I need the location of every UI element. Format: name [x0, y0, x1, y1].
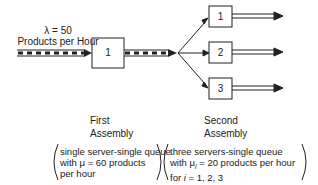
- stage2-title-line2: Assembly: [204, 128, 247, 139]
- arrival-rate-text: λ = 50: [13, 25, 103, 36]
- output-arrows: [232, 12, 283, 92]
- stage1-desc-line1: single server-single queue: [60, 146, 171, 157]
- stage2-desc-line2: with μi = 20 products per hour: [170, 157, 295, 172]
- stage2-server-number-2: 2: [209, 47, 232, 58]
- mu-value: = 20 products per hour: [197, 157, 296, 168]
- arrival-queue-arrow: [17, 49, 92, 57]
- stage1-desc-line2: with μ = 60 products: [60, 157, 171, 168]
- split-arrows: [178, 18, 209, 88]
- stage2-description: three servers-single queue with μi = 20 …: [170, 146, 295, 183]
- arrival-unit-text: Products per Hour: [13, 36, 103, 47]
- mu-symbol: with μ: [170, 157, 195, 168]
- stage1-description: single server-single queue with μ = 60 p…: [60, 146, 171, 179]
- stage2-desc-line1: three servers-single queue: [170, 146, 295, 157]
- stage2-title: Second Assembly: [204, 115, 247, 139]
- stage1-desc-line3: per hour: [60, 168, 171, 179]
- stage1-title: First Assembly: [90, 115, 133, 139]
- stage1-output-queue-arrow: [124, 49, 177, 57]
- stage2-title-line1: Second: [204, 115, 247, 126]
- stage1-server-number: 1: [92, 47, 124, 58]
- arrival-rate-label: λ = 50 Products per Hour: [13, 25, 103, 47]
- stage2-desc-line3: for i = 1, 2, 3: [170, 172, 295, 183]
- stage1-title-line1: First: [90, 115, 133, 126]
- stage1-title-line2: Assembly: [90, 128, 133, 139]
- stage2-server-number-3: 3: [209, 83, 232, 94]
- index-range: = 1, 2, 3: [186, 172, 223, 183]
- for-text: for: [170, 172, 184, 183]
- stage2-server-number-1: 1: [209, 11, 232, 22]
